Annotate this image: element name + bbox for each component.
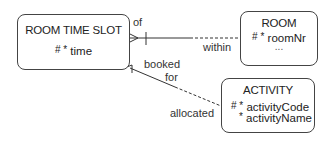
entity-name: ROOM TIME SLOT [18,24,129,36]
label-allocated: allocated [170,107,214,119]
attribute-activityname: * activityName [222,112,314,124]
label-booked: booked [144,58,180,70]
attribute-markers: # * [252,31,264,42]
crows-foot-top [130,34,138,38]
entity-name: ROOM [241,17,317,29]
entity-room-time-slot[interactable]: ROOM TIME SLOT # * time [17,14,130,70]
entity-room[interactable]: ROOM # * roomNr ... [240,11,318,66]
label-of: of [133,16,142,28]
attribute-name: roomNr [268,32,306,44]
entity-name: ACTIVITY [222,84,314,96]
crows-foot-bottom [130,38,138,42]
entity-activity[interactable]: ACTIVITY # * activityCode * activityName [221,78,315,133]
attribute-name: activityName [246,112,312,124]
label-within: within [203,41,231,53]
attribute-time: # * time [18,45,129,57]
attribute-name: time [70,45,92,57]
attribute-markers: # * [231,100,243,111]
attribute-markers: * [239,111,243,122]
rel-line-dashed [175,87,221,106]
label-for: for [165,71,178,83]
attribute-markers: # * [55,44,67,55]
